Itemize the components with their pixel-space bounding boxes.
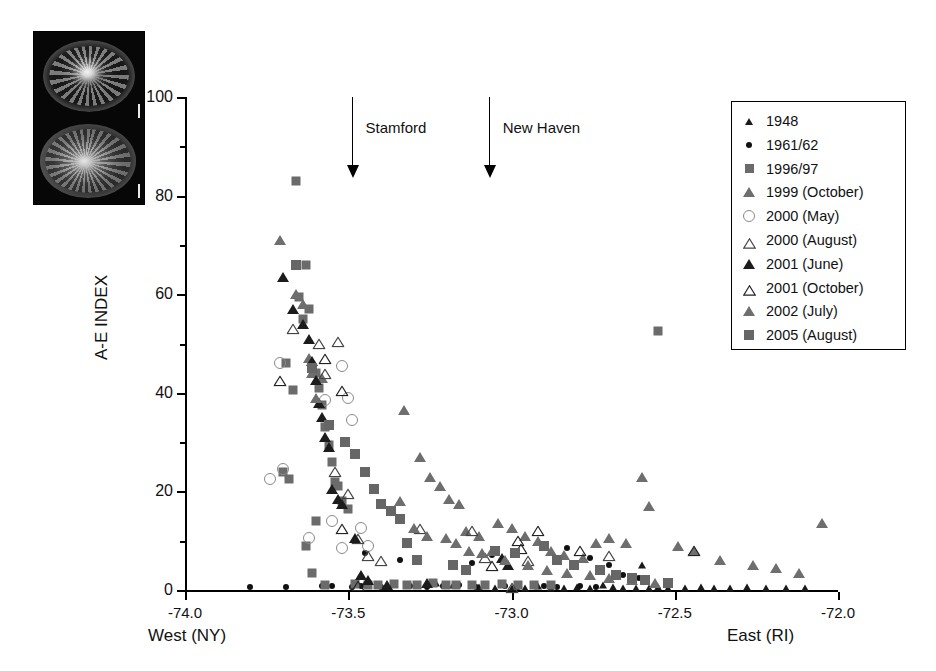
legend-marker-icon xyxy=(732,278,766,298)
legend-marker-icon xyxy=(732,301,766,321)
data-point xyxy=(350,449,360,459)
x-tick-major xyxy=(838,592,840,600)
data-point xyxy=(414,452,426,462)
legend-label: 1999 (October) xyxy=(766,184,864,200)
data-point xyxy=(274,357,286,369)
data-point xyxy=(510,548,520,558)
data-point xyxy=(310,393,322,403)
data-point xyxy=(340,437,350,447)
data-point xyxy=(492,518,504,528)
chart-legend: 19481961/621996/971999 (October)2000 (Ma… xyxy=(731,101,906,350)
data-point xyxy=(793,568,805,578)
legend-item[interactable]: 2000 (May) xyxy=(732,204,905,228)
scale-bar-top xyxy=(138,104,140,118)
legend-item[interactable]: 1999 (October) xyxy=(732,180,905,204)
data-point xyxy=(643,501,655,511)
data-point xyxy=(287,304,299,314)
legend-item[interactable]: 2000 (August) xyxy=(732,228,905,252)
legend-marker-icon xyxy=(732,325,766,345)
annotation-label: New Haven xyxy=(503,119,581,136)
legend-item[interactable]: 1996/97 xyxy=(732,157,905,181)
data-point xyxy=(595,565,605,575)
data-point xyxy=(336,542,348,554)
data-point xyxy=(632,585,640,592)
data-point xyxy=(530,581,539,590)
y-tick-minor xyxy=(180,541,185,543)
x-axis-east-label: East (RI) xyxy=(727,626,794,646)
legend-marker-icon xyxy=(732,159,766,179)
data-point xyxy=(292,176,301,185)
y-tick-minor xyxy=(180,442,185,444)
data-point xyxy=(277,463,289,475)
data-point xyxy=(308,568,317,577)
data-point xyxy=(288,386,297,395)
legend-item[interactable]: 2002 (July) xyxy=(732,299,905,323)
data-point xyxy=(311,516,320,525)
data-point xyxy=(636,472,648,482)
y-tick-minor xyxy=(180,146,185,148)
data-point xyxy=(620,538,632,548)
legend-item[interactable]: 2001 (October) xyxy=(732,276,905,300)
data-point xyxy=(463,546,475,556)
data-point xyxy=(593,584,599,590)
data-point xyxy=(552,555,562,565)
otolith-section-bottom-image xyxy=(40,124,136,198)
x-tick-label: -73.0 xyxy=(494,604,528,621)
data-point xyxy=(319,365,332,376)
y-axis-title: A-E INDEX xyxy=(92,275,112,360)
data-point xyxy=(332,333,345,344)
data-point xyxy=(274,235,286,245)
y-tick-label: 20 xyxy=(155,482,173,500)
data-point xyxy=(324,420,334,430)
y-tick-major xyxy=(177,294,185,296)
legend-marker-icon xyxy=(732,254,766,274)
y-tick-label: 80 xyxy=(155,187,173,205)
data-point xyxy=(335,520,348,531)
data-point xyxy=(546,581,555,590)
data-point xyxy=(603,533,615,543)
data-point xyxy=(782,585,790,592)
data-point xyxy=(434,481,446,491)
data-point xyxy=(453,499,465,509)
data-point xyxy=(319,350,332,361)
data-point xyxy=(329,464,342,475)
legend-item[interactable]: 2001 (June) xyxy=(732,252,905,276)
legend-item[interactable]: 2005 (August) xyxy=(732,323,905,347)
data-point xyxy=(349,533,361,543)
data-point xyxy=(450,538,462,548)
x-tick-label: -72.0 xyxy=(821,604,855,621)
legend-item[interactable]: 1948 xyxy=(732,109,905,133)
y-tick-label: 100 xyxy=(146,88,173,106)
data-point xyxy=(442,581,451,590)
y-tick-label: 0 xyxy=(164,581,173,599)
legend-label: 2000 (May) xyxy=(766,208,839,224)
data-point xyxy=(369,484,379,494)
data-point xyxy=(402,538,412,548)
legend-marker-icon xyxy=(732,182,766,202)
x-tick-major xyxy=(348,592,350,600)
arrow-head-down-icon xyxy=(484,165,496,178)
legend-label: 2001 (October) xyxy=(766,280,864,296)
data-point xyxy=(398,405,410,415)
data-point xyxy=(801,584,809,591)
data-point xyxy=(303,532,315,544)
data-point xyxy=(640,575,650,585)
data-point xyxy=(710,585,718,592)
data-point xyxy=(649,578,661,588)
y-tick-major xyxy=(177,196,185,198)
data-point xyxy=(688,543,701,554)
data-point xyxy=(468,581,477,590)
data-point xyxy=(619,584,627,591)
data-point xyxy=(323,442,335,452)
arrow-head-down-icon xyxy=(347,165,359,178)
data-point xyxy=(448,560,458,570)
data-point xyxy=(531,523,544,534)
data-point xyxy=(726,584,734,591)
data-point xyxy=(539,541,549,551)
y-tick-major xyxy=(177,97,185,99)
y-tick-major xyxy=(177,393,185,395)
x-tick-label: -73.5 xyxy=(331,604,365,621)
data-point xyxy=(412,555,422,565)
legend-item[interactable]: 1961/62 xyxy=(732,133,905,157)
annotation-label: Stamford xyxy=(366,119,427,136)
